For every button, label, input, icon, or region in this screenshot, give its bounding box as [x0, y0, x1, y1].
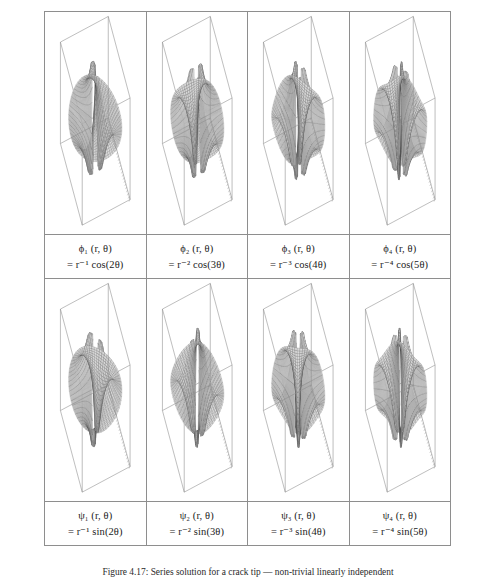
label-cell-phi-1: ϕ₁ (r, θ) = r⁻¹ cos(2θ)	[45, 235, 147, 279]
figure-container: ϕ₁ (r, θ) = r⁻¹ cos(2θ) ϕ₂ (r, θ) = r⁻² …	[0, 0, 495, 577]
formula-psi-3-line2: = r⁻³ sin(4θ)	[248, 524, 349, 539]
formula-phi-3: ϕ₃ (r, θ) = r⁻³ cos(4θ)	[248, 241, 349, 271]
plot-row-bottom	[45, 279, 451, 502]
formula-psi-1-line2: = r⁻¹ sin(2θ)	[45, 524, 146, 539]
formula-phi-4: ϕ₄ (r, θ) = r⁻⁴ cos(5θ)	[350, 241, 451, 271]
label-row-top: ϕ₁ (r, θ) = r⁻¹ cos(2θ) ϕ₂ (r, θ) = r⁻² …	[45, 235, 451, 279]
plot-cell-psi-4	[349, 279, 451, 502]
formula-phi-3-line2: = r⁻³ cos(4θ)	[248, 257, 349, 272]
formula-psi-4-line1: ψ₄ (r, θ)	[350, 508, 451, 523]
formula-phi-2-line2: = r⁻² cos(3θ)	[147, 257, 248, 272]
label-cell-psi-2: ψ₂ (r, θ) = r⁻² sin(3θ)	[146, 502, 248, 546]
plot-cell-psi-3	[248, 279, 350, 502]
formula-phi-4-line2: = r⁻⁴ cos(5θ)	[350, 257, 451, 272]
surface-plot-psi-2	[147, 279, 248, 501]
formula-psi-1: ψ₁ (r, θ) = r⁻¹ sin(2θ)	[45, 508, 146, 538]
plot-cell-phi-2	[146, 12, 248, 235]
formula-psi-4-line2: = r⁻⁴ sin(5θ)	[350, 524, 451, 539]
formula-psi-2: ψ₂ (r, θ) = r⁻² sin(3θ)	[147, 508, 248, 538]
formula-phi-2-line1: ϕ₂ (r, θ)	[147, 241, 248, 256]
formula-phi-1-line2: = r⁻¹ cos(2θ)	[45, 257, 146, 272]
plot-cell-phi-4	[349, 12, 451, 235]
formula-psi-3: ψ₃ (r, θ) = r⁻³ sin(4θ)	[248, 508, 349, 538]
label-cell-phi-2: ϕ₂ (r, θ) = r⁻² cos(3θ)	[146, 235, 248, 279]
surface-plot-psi-1	[45, 279, 146, 501]
plot-cell-psi-2	[146, 279, 248, 502]
label-cell-psi-1: ψ₁ (r, θ) = r⁻¹ sin(2θ)	[45, 502, 147, 546]
formula-psi-2-line1: ψ₂ (r, θ)	[147, 508, 248, 523]
formula-phi-2: ϕ₂ (r, θ) = r⁻² cos(3θ)	[147, 241, 248, 271]
formula-psi-1-line1: ψ₁ (r, θ)	[45, 508, 146, 523]
label-cell-psi-4: ψ₄ (r, θ) = r⁻⁴ sin(5θ)	[349, 502, 451, 546]
label-cell-phi-3: ϕ₃ (r, θ) = r⁻³ cos(4θ)	[248, 235, 350, 279]
surface-plot-phi-4	[350, 12, 451, 234]
formula-psi-3-line1: ψ₃ (r, θ)	[248, 508, 349, 523]
formula-phi-4-line1: ϕ₄ (r, θ)	[350, 241, 451, 256]
formula-psi-4: ψ₄ (r, θ) = r⁻⁴ sin(5θ)	[350, 508, 451, 538]
plot-row-top	[45, 12, 451, 235]
label-cell-psi-3: ψ₃ (r, θ) = r⁻³ sin(4θ)	[248, 502, 350, 546]
plot-cell-psi-1	[45, 279, 147, 502]
surface-plot-phi-2	[147, 12, 248, 234]
surface-plot-phi-3	[248, 12, 349, 234]
surface-plot-phi-1	[45, 12, 146, 234]
plot-cell-phi-3	[248, 12, 350, 235]
label-cell-phi-4: ϕ₄ (r, θ) = r⁻⁴ cos(5θ)	[349, 235, 451, 279]
label-row-bottom: ψ₁ (r, θ) = r⁻¹ sin(2θ) ψ₂ (r, θ) = r⁻² …	[45, 502, 451, 546]
formula-phi-3-line1: ϕ₃ (r, θ)	[248, 241, 349, 256]
plot-cell-phi-1	[45, 12, 147, 235]
figure-table: ϕ₁ (r, θ) = r⁻¹ cos(2θ) ϕ₂ (r, θ) = r⁻² …	[44, 11, 451, 546]
surface-plot-psi-4	[350, 279, 451, 501]
formula-phi-1-line1: ϕ₁ (r, θ)	[45, 241, 146, 256]
formula-psi-2-line2: = r⁻² sin(3θ)	[147, 524, 248, 539]
surface-plot-psi-3	[248, 279, 349, 501]
formula-phi-1: ϕ₁ (r, θ) = r⁻¹ cos(2θ)	[45, 241, 146, 271]
figure-caption: Figure 4.17: Series solution for a crack…	[26, 566, 470, 577]
